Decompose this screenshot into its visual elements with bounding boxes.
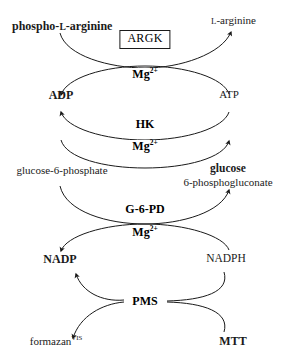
reaction-line-group (167, 272, 225, 332)
line-mtt-to-pms (167, 302, 225, 332)
pathway-diagram: phospho-l-arginine l-arginine ADP ATP gl… (0, 0, 290, 364)
enzyme-argk-box: ARGK (119, 30, 170, 49)
label-adp: ADP (49, 89, 74, 101)
cofactor-mg-2: Mg2+ (129, 140, 160, 152)
arrow-pms-to-nadp (76, 274, 124, 300)
label-phospho-l-arginine: phospho-l-arginine (12, 20, 112, 32)
label-formazan: formazanVIS (30, 336, 83, 347)
label-glucose-6-phosphate: glucose-6-phosphate (16, 165, 107, 176)
enzyme-pms-label: PMS (129, 295, 160, 307)
label-nadph: NADPH (206, 253, 246, 265)
cofactor-mg-3: Mg2+ (129, 226, 160, 238)
label-atp: ATP (219, 89, 239, 100)
line-nadph-to-pms (167, 272, 225, 301)
label-nadp: NADP (43, 253, 76, 265)
arrow-pms-to-formazan (73, 302, 124, 338)
label-l-arginine: l-arginine (211, 15, 256, 26)
label-6-phosphogluconate: 6-phosphogluconate (183, 177, 272, 188)
label-mtt: MTT (219, 335, 246, 347)
cofactor-mg-1: Mg2+ (129, 68, 160, 80)
enzyme-hk-label: HK (133, 118, 158, 130)
label-glucose: glucose (210, 163, 246, 175)
enzyme-g6pd-label: G-6-PD (122, 203, 167, 215)
